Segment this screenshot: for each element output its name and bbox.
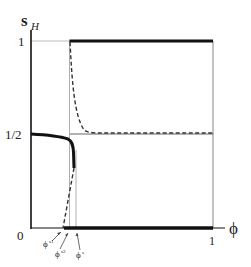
svg-text:s: s xyxy=(82,250,84,255)
svg-text:ϕ: ϕ xyxy=(76,250,81,260)
series-stable-symmetric xyxy=(31,134,74,168)
annotation-phi-s1: ϕ s1 xyxy=(43,232,61,249)
series-unstable-lower xyxy=(63,168,74,228)
tick-x-1: 1 xyxy=(209,234,215,248)
annotation-phi-s2: ϕ s2 xyxy=(55,233,68,259)
y-axis-label-sub: H xyxy=(30,20,40,32)
x-axis-label: ϕ xyxy=(229,219,238,238)
tick-y-1: 1 xyxy=(18,34,25,49)
svg-text:s2: s2 xyxy=(61,249,66,254)
tick-y-half: 1/2 xyxy=(5,127,22,142)
series-unstable-upper xyxy=(70,42,213,133)
y-axis-label: s xyxy=(21,11,28,30)
tick-y-0: 0 xyxy=(17,228,24,243)
annotation-phi-s: ϕ s xyxy=(76,233,85,260)
svg-text:ϕ: ϕ xyxy=(55,249,60,259)
chart: s H ϕ 1 1/2 0 1 ϕ s1 ϕ s2 ϕ s xyxy=(0,0,251,267)
svg-text:s1: s1 xyxy=(49,239,54,244)
svg-text:ϕ: ϕ xyxy=(43,239,48,249)
